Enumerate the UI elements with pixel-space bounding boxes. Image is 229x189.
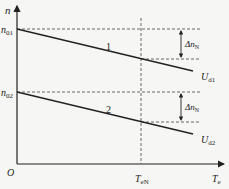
line-2-label: 2 [106,104,111,115]
origin-label: O [7,167,14,178]
line-1-label: 1 [106,41,111,52]
characteristic-line-2 [17,92,193,134]
ud2-label: Ud2 [201,134,216,147]
y-axis-label: n [5,4,11,16]
characteristic-line-1 [17,29,193,71]
x-axis-label: Te [212,173,221,186]
n01-label: n01 [1,24,14,37]
delta-n-label-2: ΔnN [184,102,200,113]
speed-torque-diagram: n n01 n02 O TeN Te 1 2 Ud1 Ud2 ΔnN ΔnN [0,0,229,189]
ud1-label: Ud1 [201,71,216,84]
delta-n-label-1: ΔnN [184,39,200,50]
ten-label: TeN [135,173,149,186]
n02-label: n02 [1,87,14,100]
